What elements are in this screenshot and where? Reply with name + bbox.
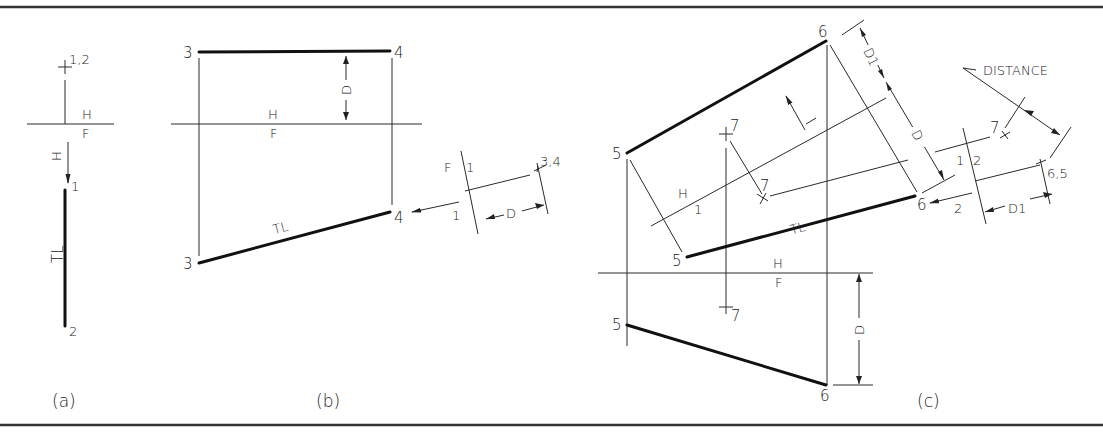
point-label: 5 [672, 252, 682, 270]
point-label: 3 [183, 255, 193, 273]
point-label: 6 [818, 23, 828, 41]
projection-line [935, 137, 990, 152]
arrow-label: H [49, 151, 64, 161]
dim-label-d1: D1 [1008, 201, 1026, 216]
point-label: 1,2 [69, 52, 90, 67]
fold-label-1: 1 [466, 160, 474, 175]
point-label: 6 [917, 196, 927, 214]
fold-label-1: 1 [452, 208, 460, 223]
projection-line [465, 175, 530, 191]
panel-a: 1,2 H F H 1 TL 2 (a) [27, 52, 114, 411]
fold-label-h: H [82, 107, 92, 122]
tl-label: TL [788, 219, 807, 237]
panel-b: 3 4 D H F TL 3 4 F 1 1 3,4 D (b) [171, 44, 561, 411]
point-label: 7 [990, 119, 1000, 137]
point-label: 5 [612, 145, 622, 163]
fold-label-f: F [444, 160, 451, 175]
panel-c: 5 6 7 H 1 7 TL 5 6 D1 [598, 20, 1071, 411]
tl-label: TL [271, 219, 290, 237]
fold-label-f: F [270, 126, 277, 141]
fold-label-h: H [773, 256, 783, 271]
fold-label-f: F [775, 275, 782, 290]
projection-line [975, 165, 1040, 181]
fold-label-f: F [82, 126, 89, 141]
point-label: 6 [820, 387, 830, 405]
tl-label: TL [49, 245, 67, 263]
point-label: 5 [612, 316, 622, 334]
dim-ext-line [842, 20, 864, 35]
point-label: 4 [394, 209, 404, 227]
caption-a: (a) [52, 391, 76, 411]
fold-label-h: H [678, 186, 688, 201]
point-label: 7 [730, 117, 740, 135]
dim-label-d: D [339, 85, 354, 95]
dim-label-d: D [852, 325, 867, 335]
fold-label-h: H [268, 107, 278, 122]
fold-line-h1 [651, 98, 886, 226]
fold-label-1: 1 [956, 153, 964, 168]
caption-b: (b) [316, 391, 340, 411]
projection-line [770, 160, 908, 196]
distance-dim-line [963, 68, 1060, 135]
projection-line [830, 45, 917, 192]
point-label: 4 [394, 44, 404, 62]
caption-c: (c) [917, 391, 940, 411]
point-label: 1 [71, 179, 79, 194]
arrow-label: 2 [954, 201, 962, 216]
fold-label-2: 2 [973, 153, 981, 168]
front-view-line [627, 325, 826, 385]
point-label: 2 [69, 324, 77, 339]
projection-line [730, 141, 762, 194]
dim-ext-line [1005, 97, 1025, 128]
technical-drawing: 1,2 H F H 1 TL 2 (a) 3 4 D H F TL 3 4 F … [0, 0, 1103, 436]
view-arrow [930, 193, 972, 203]
point-label: 7 [731, 307, 741, 325]
point-label: 3 [183, 44, 193, 62]
view-arrow [786, 96, 805, 130]
projection-line [630, 160, 682, 252]
point-label: 3,4 [540, 154, 561, 169]
dim-ext-line [922, 175, 955, 193]
fold-line-12 [963, 128, 986, 224]
true-length-line [199, 212, 390, 263]
fold-label-1: 1 [694, 202, 702, 217]
dim-label-d: D [506, 206, 516, 221]
distance-label: DISTANCE [983, 63, 1048, 78]
point-label: 6,5 [1047, 166, 1068, 181]
top-view-line [199, 51, 390, 52]
point-label: 7 [760, 177, 770, 195]
